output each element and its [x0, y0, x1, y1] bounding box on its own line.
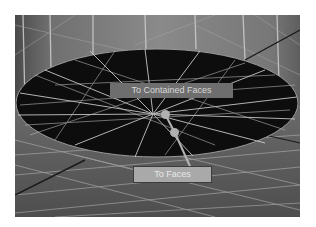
to-faces-label[interactable]: To Faces	[133, 166, 212, 183]
3d-viewport[interactable]: To Contained Faces To Faces	[15, 15, 300, 217]
to-contained-faces-label[interactable]: To Contained Faces	[110, 83, 233, 98]
gizmo-handle-icon[interactable]	[170, 128, 179, 137]
mesh-wireframe	[15, 15, 300, 217]
gizmo-handle-icon[interactable]	[161, 110, 170, 119]
